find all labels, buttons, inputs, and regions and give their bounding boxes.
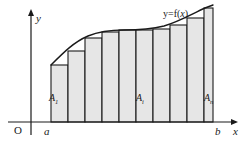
lower-bound-label: a [44,126,50,137]
x-axis-label: x [233,126,238,137]
area-label-ith: Ai [136,93,144,106]
riemann-rectangle [85,38,102,122]
riemann-rectangle [187,18,204,122]
area-label-ith-sub: i [142,98,144,105]
riemann-rectangle [153,29,170,122]
riemann-rectangle [136,30,153,122]
riemann-sum-figure: y x O a b y=f(x) A1 Ai An [0,0,247,147]
origin-label: O [14,125,22,136]
riemann-rectangle [119,30,136,122]
upper-bound-label: b [215,126,221,137]
function-label-suffix: ) [185,8,188,19]
area-label-first: A1 [49,93,58,106]
function-label-prefix: y=f( [163,8,180,19]
area-label-nth: An [204,93,213,106]
area-label-first-sub: 1 [55,98,58,105]
area-label-nth-sub: n [210,98,213,105]
function-label: y=f(x) [163,9,188,19]
riemann-rectangle [102,32,119,122]
y-axis-label: y [36,13,41,24]
rectangles-group [51,8,213,122]
riemann-rectangle [68,51,85,122]
y-axis-arrowhead [28,9,34,16]
riemann-rectangle [170,25,187,122]
